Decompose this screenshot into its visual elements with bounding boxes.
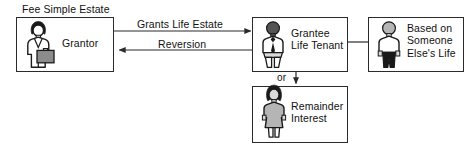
- woman-in-dress-icon: [257, 83, 291, 139]
- node-grantor-label: Grantor: [62, 37, 112, 49]
- node-grantee-label: Grantee Life Tenant: [291, 27, 351, 52]
- edge-label-or: or: [277, 72, 286, 83]
- life-estate-diagram: Fee Simple Estate Grantor Grants Life Es…: [0, 0, 470, 161]
- fee-simple-estate-caption: Fee Simple Estate: [22, 3, 110, 15]
- businesswoman-with-briefcase-icon: [22, 20, 56, 69]
- node-remainder-interest-label: Remainder Interest: [291, 100, 351, 125]
- edge-label-grants-life-estate: Grants Life Estate: [137, 18, 223, 30]
- person-with-tie-icon: [258, 20, 288, 69]
- person-dark-legs-icon: [374, 20, 404, 69]
- node-measuring-life-label: Based on Someone Else's Life: [407, 22, 465, 59]
- edge-label-reversion: Reversion: [158, 38, 206, 50]
